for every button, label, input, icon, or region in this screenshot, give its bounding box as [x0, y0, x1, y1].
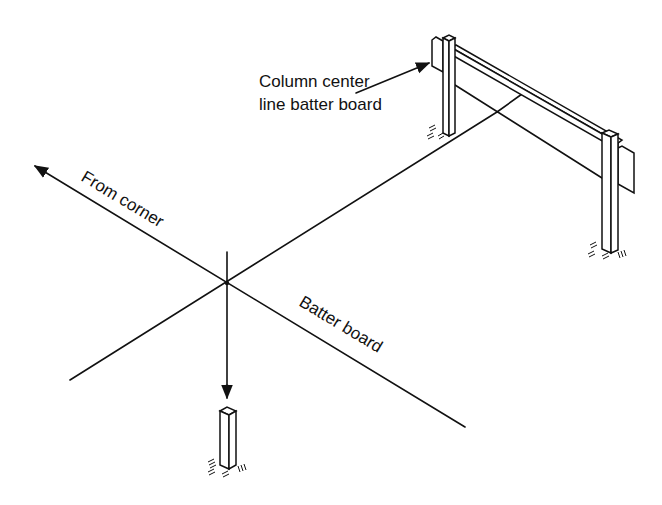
from-corner-line — [35, 166, 465, 427]
label-column-center: Column center — [259, 72, 370, 91]
diagram-canvas: Column center line batter board From cor… — [0, 0, 662, 505]
plumb-line — [224, 252, 229, 398]
ledger-board — [452, 45, 622, 150]
intersection-point — [225, 281, 229, 285]
right-batter-post — [588, 130, 634, 259]
left-batter-post — [427, 35, 455, 139]
label-line-batter-board: line batter board — [259, 95, 382, 114]
column-center-line — [70, 94, 522, 380]
corner-stake — [208, 407, 246, 477]
label-from-corner: From corner — [78, 167, 167, 231]
label-batter-board: Batter board — [296, 292, 386, 356]
batter-board-diagram: Column center line batter board From cor… — [0, 0, 662, 505]
ground-hatch-icon — [427, 125, 444, 139]
plumb-bob-icon — [224, 384, 229, 389]
